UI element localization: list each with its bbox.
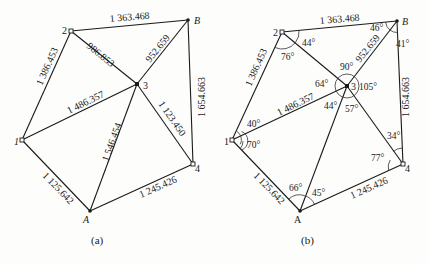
- angle-arc-1-lower: [240, 141, 243, 149]
- edge-3-B: [137, 20, 188, 84]
- angle-arc-4-lower: [388, 160, 390, 171]
- angle-label-2-upper: 44°: [302, 38, 316, 48]
- angle-label-3-left: 64°: [315, 79, 329, 89]
- angle-arc-2-lower: [275, 43, 295, 49]
- station-3-marker: [345, 84, 349, 88]
- edge-2-1: [22, 31, 71, 140]
- point-label-3: 3: [351, 81, 356, 92]
- angle-label-4-lower: 77°: [371, 153, 385, 163]
- edge-label-2-1: 1 386.453: [34, 46, 60, 87]
- angle-arc-B-left: [386, 22, 390, 30]
- edge-label-2-3: 986.853: [85, 40, 117, 69]
- edge-label-B-4: 1 654.663: [400, 77, 411, 117]
- triangulation-network-figure: 2 B 3 1 A 4 1 363.468 1 386.453 986.853 …: [0, 0, 428, 265]
- point-label-4: 4: [405, 163, 410, 174]
- point-label-2: 2: [273, 27, 278, 38]
- station-B-marker: [186, 18, 190, 22]
- edge-label-2-B: 1 363.468: [319, 12, 360, 26]
- station-A-marker: [298, 209, 302, 213]
- caption-b: (b): [301, 234, 314, 247]
- angle-arc-B-right: [390, 30, 398, 33]
- figure-a: 2 B 3 1 A 4 1 363.468 1 386.453 986.853 …: [14, 10, 207, 247]
- station-1-marker: [230, 138, 234, 142]
- point-label-B: B: [194, 15, 200, 26]
- edge-label-B-4: 1 654.663: [196, 77, 207, 117]
- edge-label-1-A: 1 125.642: [41, 170, 77, 206]
- angle-arc-4-upper: [393, 148, 402, 152]
- angle-label-3-lowright: 57°: [345, 104, 359, 114]
- station-A-marker: [88, 209, 92, 213]
- edge-label-3-B: 952.659: [143, 32, 172, 64]
- edge-B-4: [188, 20, 193, 164]
- station-3-marker: [135, 82, 139, 86]
- angle-label-3-top: 90°: [340, 62, 354, 72]
- point-label-2: 2: [62, 25, 67, 36]
- angle-arc-2-upper: [295, 30, 299, 42]
- edge-label-3-A: 1 546.454: [100, 121, 124, 162]
- edge-1-A: [22, 140, 90, 211]
- caption-a: (a): [91, 234, 104, 247]
- angle-label-2-lower: 76°: [281, 52, 295, 62]
- angle-label-1-upper: 40°: [247, 119, 261, 129]
- angle-label-3-right: 105°: [359, 82, 377, 92]
- point-label-A: A: [294, 214, 302, 225]
- station-2-marker: [280, 30, 284, 34]
- angle-label-1-lower: 70°: [247, 140, 261, 150]
- station-2-marker: [69, 29, 73, 33]
- point-label-4: 4: [195, 163, 200, 174]
- angle-label-3-lowleft: 44°: [324, 101, 338, 111]
- angle-label-B-left: 46°: [370, 23, 384, 33]
- angle-label-B-right: 41°: [396, 39, 410, 49]
- station-B-marker: [395, 19, 399, 23]
- angle-label-A-left: 66°: [289, 183, 303, 193]
- edge-3-4: [137, 84, 193, 164]
- figure-b: 2 B 3 1 A 4 1 363.468 1 386.453 952.659 …: [224, 12, 411, 247]
- edge-label-2-B: 1 363.468: [109, 10, 150, 24]
- point-label-3: 3: [143, 80, 148, 91]
- point-label-B: B: [402, 16, 408, 27]
- edge-label-A-4: 1 245.426: [348, 175, 389, 201]
- edge-label-A-4: 1 245.426: [137, 174, 178, 200]
- point-label-A: A: [82, 214, 90, 225]
- angle-label-4-upper: 34°: [387, 131, 401, 141]
- edge-label-1-A: 1 125.642: [252, 170, 288, 206]
- point-label-1: 1: [224, 136, 229, 147]
- figure-canvas: 2 B 3 1 A 4 1 363.468 1 386.453 986.853 …: [0, 0, 428, 265]
- angle-arc-A-left: [289, 195, 305, 199]
- point-label-1: 1: [14, 136, 19, 147]
- station-1-marker: [20, 138, 24, 142]
- angle-label-A-right: 45°: [312, 188, 326, 198]
